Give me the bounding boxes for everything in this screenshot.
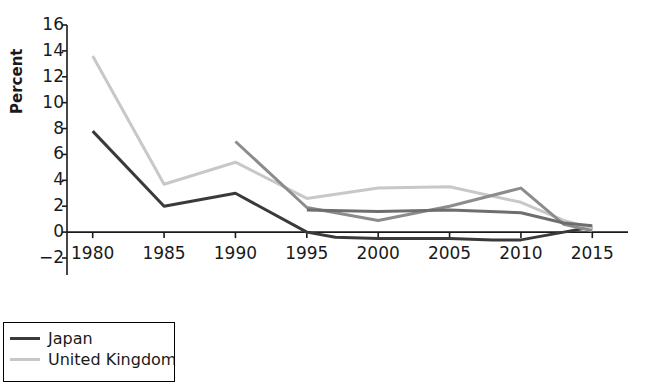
series-line-united-kingdom [93, 56, 593, 228]
legend-item: Japan [4, 328, 93, 349]
legend-item: United Kingdom [4, 349, 175, 370]
legend-label: United Kingdom [48, 352, 175, 368]
series-line-japan [93, 131, 593, 240]
legend-color-swatch [10, 337, 40, 340]
legend-color-swatch [10, 358, 40, 361]
legend-label: Japan [48, 331, 93, 347]
chart-legend: JapanUnited Kingdom [3, 322, 175, 382]
